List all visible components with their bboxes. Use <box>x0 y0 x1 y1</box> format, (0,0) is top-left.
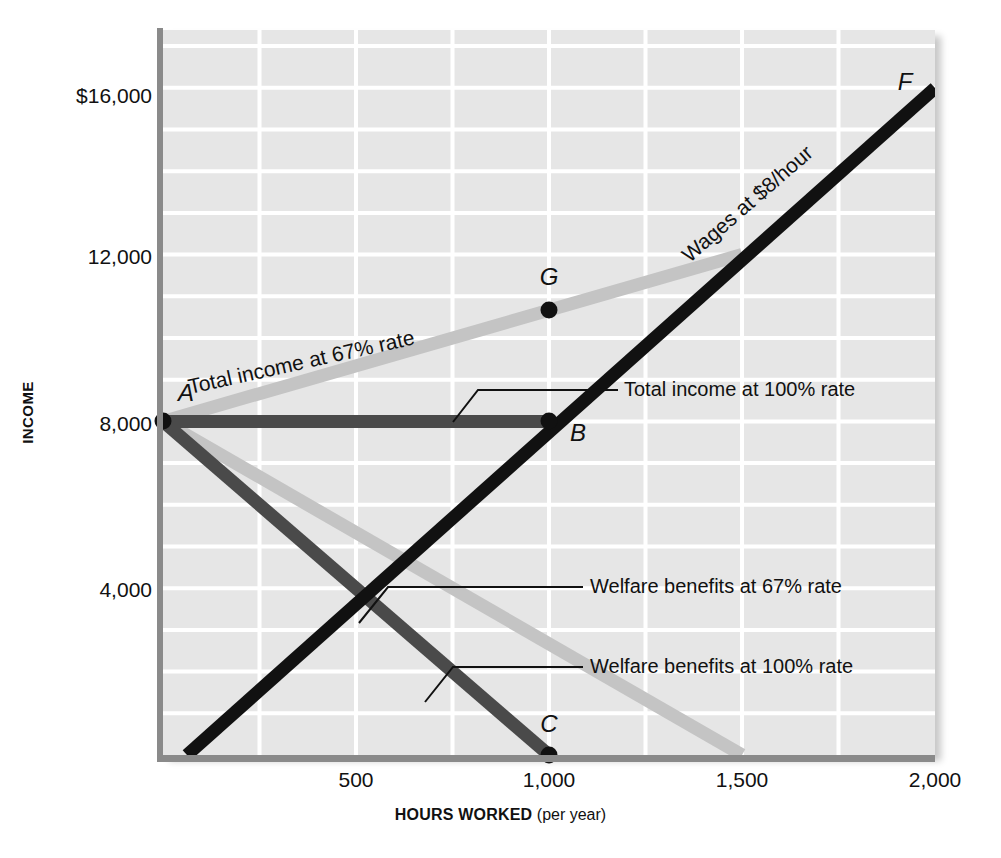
series-welfare-100-line <box>163 421 549 755</box>
x-axis-title: HOURS WORKED (per year) <box>0 806 1001 824</box>
x-axis-title-plain: (per year) <box>537 806 606 823</box>
annotation-welfare-100: Welfare benefits at 100% rate <box>590 655 853 678</box>
point-b-dot <box>541 413 558 430</box>
chart-figure: $16,000 12,000 8,000 4,000 INCOME <box>0 0 1001 858</box>
point-c-label: C <box>540 710 557 738</box>
y-tick-16000: $16,000 <box>2 84 152 108</box>
x-tick-500: 500 <box>338 768 373 792</box>
annotation-welfare-67: Welfare benefits at 67% rate <box>590 575 842 598</box>
y-tick-12000: 12,000 <box>2 245 152 269</box>
annotation-total-income-100: Total income at 100% rate <box>624 378 855 401</box>
plot-area: A B C G F Total income at 67% rate Wages… <box>163 30 935 755</box>
point-g-label: G <box>540 263 559 291</box>
x-tick-1000: 1,000 <box>523 768 576 792</box>
y-tick-4000: 4,000 <box>2 578 152 602</box>
x-tick-1500: 1,500 <box>716 768 769 792</box>
x-tick-2000: 2,000 <box>909 768 962 792</box>
point-f-label: F <box>898 68 913 96</box>
y-axis-line <box>157 28 163 759</box>
x-axis-title-bold: HOURS WORKED <box>395 806 533 823</box>
y-axis-title: INCOME <box>19 381 36 443</box>
point-b-label: B <box>570 419 586 447</box>
x-axis-line <box>157 755 935 762</box>
point-g-dot <box>541 302 558 319</box>
